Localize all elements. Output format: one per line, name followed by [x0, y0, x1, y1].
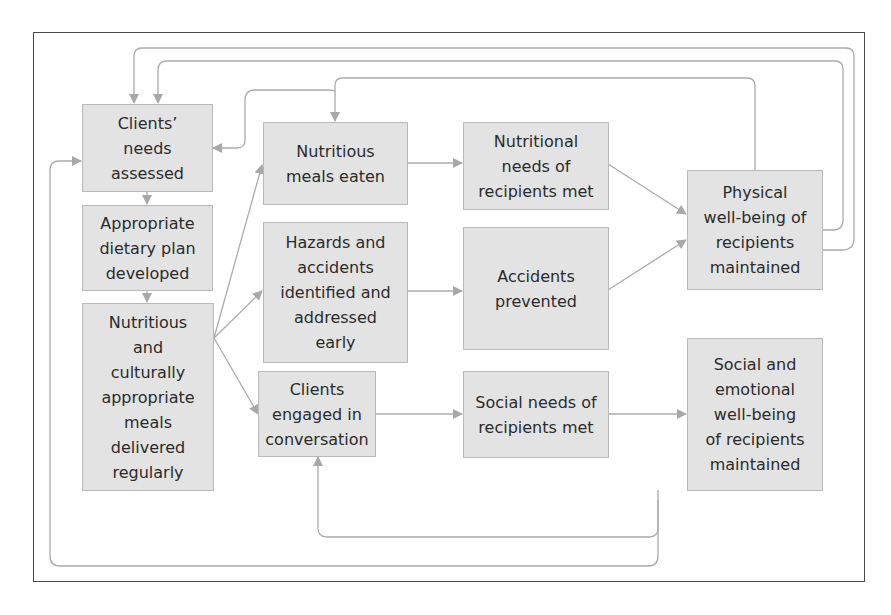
node-social-needs-met: Social needs ofrecipients met [463, 371, 609, 458]
node-label-line: meals [101, 410, 194, 435]
node-label-line: meals eaten [286, 164, 385, 189]
node-label-line: engaged in [265, 402, 368, 427]
feedback-emotional-to-conversation [318, 457, 658, 537]
node-clients-engaged: Clientsengaged inconversation [258, 371, 376, 457]
node-label-line: Clients [265, 377, 368, 402]
node-meals-eaten: Nutritiousmeals eaten [263, 122, 408, 205]
node-label-line: assessed [111, 161, 184, 186]
node-label: Clientsengaged inconversation [265, 377, 368, 452]
arrow-meals-to-hazards [214, 291, 262, 338]
node-label-line: regularly [101, 460, 194, 485]
arrow-meals-to-conversation [214, 338, 258, 414]
node-label-line: Physical [704, 180, 807, 205]
node-label-line: well-being of [704, 205, 807, 230]
node-label: Nutritiousandculturallyappropriatemealsd… [101, 310, 194, 485]
node-label: Physicalwell-being ofrecipientsmaintaine… [704, 180, 807, 280]
node-label: Social needs ofrecipients met [475, 390, 596, 440]
node-label-line: Nutritious [101, 310, 194, 335]
node-label-line: identified and [280, 280, 391, 305]
node-physical-well-being: Physicalwell-being ofrecipientsmaintaine… [687, 170, 823, 290]
arrow-meals-to-eaten [214, 165, 262, 338]
node-label-line: well-being [705, 402, 804, 427]
node-label-line: early [280, 330, 391, 355]
node-label: Nutritionalneeds ofrecipients met [478, 129, 593, 204]
node-label-line: emotional [705, 377, 804, 402]
node-label-line: and [101, 335, 194, 360]
node-label-line: recipients [704, 230, 807, 255]
node-label-line: conversation [265, 427, 368, 452]
node-label-line: recipients met [475, 415, 596, 440]
node-label-line: Hazards and [280, 230, 391, 255]
node-label-line: appropriate [101, 385, 194, 410]
node-label: Appropriatedietary plandeveloped [99, 211, 195, 286]
node-label-line: maintained [704, 255, 807, 280]
node-label-line: maintained [705, 452, 804, 477]
node-label-line: Nutritious [286, 139, 385, 164]
arrow-nutr-met-to-physical [608, 164, 686, 214]
node-label: Clients’needsassessed [111, 111, 184, 186]
node-nutritional-needs-met: Nutritionalneeds ofrecipients met [463, 122, 609, 210]
node-label-line: Accidents [495, 264, 577, 289]
node-label-line: accidents [280, 255, 391, 280]
node-label-line: Social and [705, 352, 804, 377]
node-label-line: Social needs of [475, 390, 596, 415]
node-label-line: developed [99, 261, 195, 286]
node-label-line: needs [111, 136, 184, 161]
node-hazards-identified: Hazards andaccidentsidentified andaddres… [263, 222, 408, 363]
node-label-line: Appropriate [99, 211, 195, 236]
node-label-line: culturally [101, 360, 194, 385]
arrow-acc-prev-to-physical [608, 240, 686, 290]
node-label-line: Nutritional [478, 129, 593, 154]
node-label-line: delivered [101, 435, 194, 460]
node-label-line: of recipients [705, 427, 804, 452]
node-label-line: prevented [495, 289, 577, 314]
node-label-line: recipients met [478, 179, 593, 204]
node-label: Social andemotionalwell-beingof recipien… [705, 352, 804, 477]
node-label-line: dietary plan [99, 236, 195, 261]
node-dietary-plan-developed: Appropriatedietary plandeveloped [82, 205, 213, 291]
node-label: Hazards andaccidentsidentified andaddres… [280, 230, 391, 355]
node-label-line: needs of [478, 154, 593, 179]
node-label-line: Clients’ [111, 111, 184, 136]
node-accidents-prevented: Accidentsprevented [463, 227, 609, 350]
node-label-line: addressed [280, 305, 391, 330]
node-label: Nutritiousmeals eaten [286, 139, 385, 189]
node-clients-needs-assessed: Clients’needsassessed [82, 104, 213, 192]
node-label: Accidentsprevented [495, 264, 577, 314]
node-meals-delivered: Nutritiousandculturallyappropriatemealsd… [82, 303, 214, 491]
node-social-emotional-well-being: Social andemotionalwell-beingof recipien… [687, 338, 823, 491]
